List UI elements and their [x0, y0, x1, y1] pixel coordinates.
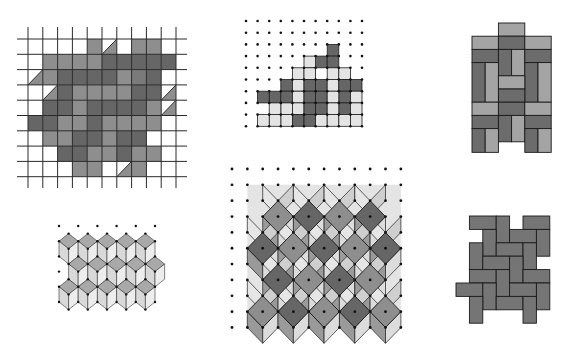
grid-cell: [43, 131, 58, 146]
lattice-dot: [303, 20, 306, 23]
lattice-dot: [307, 247, 310, 250]
lattice-dot: [314, 102, 317, 105]
herringbone-brick: [536, 229, 549, 256]
herringbone-brick: [496, 243, 523, 256]
lattice-dot: [384, 247, 387, 250]
lattice-dot: [268, 55, 271, 58]
grid-cell: [87, 146, 102, 161]
lattice-dot: [303, 102, 306, 105]
zigzag-tile-cell: [339, 68, 351, 80]
herringbone-brick: [469, 243, 482, 270]
lattice-dot: [277, 326, 280, 329]
zigzag-tile-cell: [327, 115, 339, 127]
grid-cell: [132, 100, 147, 115]
lattice-dot: [231, 168, 234, 171]
lattice-dot: [361, 125, 364, 128]
grid-cell: [87, 100, 102, 115]
lattice-dot: [314, 31, 317, 34]
lattice-dot: [349, 31, 352, 34]
grid-cell: [72, 70, 87, 85]
zigzag-tile-cell: [339, 80, 351, 92]
lattice-dot: [277, 279, 280, 282]
lattice-dot: [338, 113, 341, 116]
lattice-dot: [280, 43, 283, 46]
lattice-dot: [349, 20, 352, 23]
lattice-dot: [256, 113, 259, 116]
lattice-dot: [261, 310, 264, 313]
zigzag-tile-cell: [258, 91, 270, 103]
zigzag-tile-cell: [292, 115, 304, 127]
lattice-dot: [246, 168, 249, 171]
lattice-dot: [361, 90, 364, 93]
lattice-dot: [154, 286, 156, 288]
lattice-dot: [384, 279, 387, 282]
lattice-dot: [231, 215, 234, 218]
lattice-dot: [369, 199, 372, 202]
lattice-dot: [246, 231, 249, 234]
lattice-dot: [326, 55, 329, 58]
lattice-dot: [144, 293, 146, 295]
lattice-dot: [323, 263, 326, 266]
lattice-dot: [338, 78, 341, 81]
grid-cell: [72, 146, 87, 161]
lattice-dot: [303, 43, 306, 46]
lattice-dot: [369, 183, 372, 186]
lattice-dot: [125, 278, 127, 280]
lattice-dot: [326, 20, 329, 23]
lattice-dot: [326, 67, 329, 70]
basketweave-brick: [525, 63, 538, 103]
lattice-dot: [361, 43, 364, 46]
lattice-dot: [268, 90, 271, 93]
lattice-dot: [384, 199, 387, 202]
grid-cell: [102, 54, 117, 69]
lattice-dot: [256, 43, 259, 46]
lattice-dot: [106, 232, 108, 234]
lattice-dot: [246, 279, 249, 282]
lattice-dot: [338, 199, 341, 202]
grid-cell: [102, 100, 117, 115]
lattice-dot: [369, 310, 372, 313]
lattice-dot: [231, 247, 234, 250]
zigzag-tile-cell: [292, 80, 304, 92]
basketweave-brick: [498, 89, 524, 102]
lattice-dot: [384, 294, 387, 297]
grid-cell: [72, 116, 87, 131]
lattice-dot: [323, 294, 326, 297]
lattice-dot: [261, 199, 264, 202]
lattice-dot: [245, 43, 248, 46]
lattice-dot: [307, 263, 310, 266]
grid-cell: [58, 85, 73, 100]
lattice-dot: [96, 225, 98, 227]
lattice-dot: [369, 215, 372, 218]
basketweave-brick: [472, 36, 498, 49]
grid-cell: [58, 116, 73, 131]
zigzag-tile-cell: [350, 103, 362, 115]
zigzag-tile-cell: [281, 103, 293, 115]
lattice-dot: [256, 31, 259, 34]
lattice-dot: [261, 215, 264, 218]
lattice-dot: [135, 270, 137, 272]
herringbone-brick: [483, 229, 496, 256]
lattice-dot: [292, 310, 295, 313]
lattice-dot: [261, 326, 264, 329]
lattice-dot: [125, 248, 127, 250]
lattice-dot: [77, 240, 79, 242]
grid-cell: [58, 70, 73, 85]
basketweave-brick: [498, 36, 524, 49]
herringbone-brick: [536, 283, 549, 310]
basketweave-brick: [498, 23, 524, 36]
lattice-dot: [349, 90, 352, 93]
lattice-dot: [307, 231, 310, 234]
grid-cell: [132, 85, 147, 100]
grid-cell: [102, 146, 117, 161]
lattice-dot: [338, 55, 341, 58]
lattice-dot: [67, 232, 69, 234]
lattice-dot: [338, 279, 341, 282]
lattice-dot: [291, 43, 294, 46]
lattice-dot: [144, 232, 146, 234]
lattice-dot: [361, 78, 364, 81]
lattice-dot: [245, 113, 248, 116]
lattice-dot: [349, 55, 352, 58]
basketweave-brick: [472, 102, 498, 115]
zigzag-tile-cell: [304, 91, 316, 103]
